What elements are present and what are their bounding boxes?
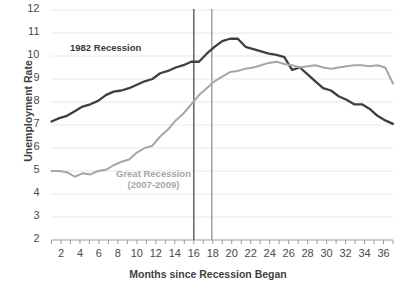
y-tick-label: 5: [14, 163, 40, 175]
y-tick-label: 2: [14, 232, 40, 244]
series-label-great-recession-line1: Great Recession: [116, 168, 191, 179]
x-axis-title: Months since Recession Began: [0, 268, 416, 280]
series-label-great-recession-line2: (2007-2009): [116, 179, 191, 190]
series-label-1982-recession: 1982 Recession: [70, 42, 141, 53]
series-label-great-recession: Great Recession (2007-2009): [116, 168, 191, 190]
y-tick-label: 3: [14, 209, 40, 221]
unemployment-rate-chart: Unemployment Rate Months since Recession…: [0, 0, 416, 290]
y-tick-label: 8: [14, 94, 40, 106]
x-tick-label: 36: [373, 247, 395, 259]
y-tick-label: 12: [14, 2, 40, 14]
y-tick-label: 11: [14, 25, 40, 37]
y-tick-label: 6: [14, 140, 40, 152]
y-tick-label: 4: [14, 186, 40, 198]
y-tick-label: 10: [14, 48, 40, 60]
y-tick-label: 9: [14, 71, 40, 83]
y-tick-label: 7: [14, 117, 40, 129]
